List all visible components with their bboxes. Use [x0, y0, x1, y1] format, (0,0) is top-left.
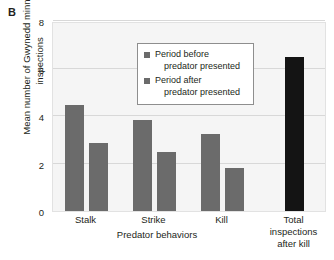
bar	[285, 57, 304, 211]
x-tick-label: Kill	[185, 214, 259, 226]
legend-swatch-icon	[144, 52, 150, 58]
y-axis-ticks: 02468	[0, 0, 52, 260]
x-tick-label: Strike	[117, 214, 191, 226]
chart-legend: Period beforepredator presentedPeriod af…	[137, 43, 254, 105]
legend-entry: Period beforepredator presented	[144, 49, 247, 72]
legend-swatch-icon	[144, 78, 150, 84]
legend-entry: Period afterpredator presented	[144, 75, 247, 98]
bar	[89, 143, 108, 211]
bar	[157, 152, 176, 211]
x-tick-label: Totalinspectionsafter kill	[257, 214, 331, 250]
x-axis-title: Predator behaviors	[52, 229, 262, 240]
bar	[225, 168, 244, 211]
legend-label: Period afterpredator presented	[155, 75, 240, 98]
y-tick-label: 2	[4, 159, 44, 170]
y-tick-label: 4	[4, 112, 44, 123]
y-tick-label: 0	[4, 207, 44, 218]
figure-panel-b: B Mean number of Gwynedd minnow inspecti…	[0, 0, 334, 260]
bar	[201, 134, 220, 211]
legend-label: Period beforepredator presented	[155, 49, 240, 72]
y-tick-label: 6	[4, 64, 44, 75]
bar	[133, 120, 152, 211]
x-tick-label: Stalk	[49, 214, 123, 226]
bar	[65, 105, 84, 211]
gridline	[53, 20, 325, 21]
y-tick-label: 8	[4, 17, 44, 28]
